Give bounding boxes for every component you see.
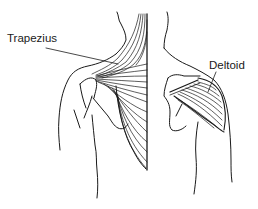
trapezius-leader-line xyxy=(46,48,118,64)
trapezius-muscle xyxy=(92,14,147,169)
deltoid-label: Deltoid xyxy=(209,60,245,72)
trapezius-label: Trapezius xyxy=(7,33,57,45)
anatomy-figure: Trapezius Deltoid xyxy=(0,0,258,209)
right-body-outline xyxy=(164,12,232,194)
